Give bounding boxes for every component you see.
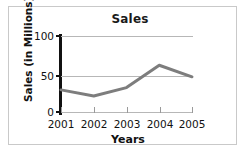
y-tick-label-50: 50 [24,70,54,82]
x-tick-label-2002: 2002 [77,118,111,130]
x-tick-label-2005: 2005 [175,118,209,130]
gridline-50 [61,76,193,77]
chart-title: Sales [60,12,200,26]
gridline-100 [61,36,193,37]
x-axis-label: Years [58,133,198,146]
y-axis-tick-labels: 100 50 0 [20,0,54,153]
x-tick-label-2003: 2003 [110,118,144,130]
x-tick-mark-2004 [160,107,161,113]
x-tick-mark-2002 [94,107,95,113]
x-tick-label-2001: 2001 [44,118,78,130]
chart-figure: Sales Sales (in Millions) 100 50 0 2001 … [0,0,245,153]
x-tick-mark-2001 [61,107,62,113]
y-tick-label-100: 100 [24,30,54,42]
x-tick-label-2004: 2004 [143,118,177,130]
x-tick-mark-2005 [192,107,193,113]
plot-area [61,36,193,113]
x-tick-mark-2003 [127,107,128,113]
y-tick-label-0: 0 [24,106,54,118]
